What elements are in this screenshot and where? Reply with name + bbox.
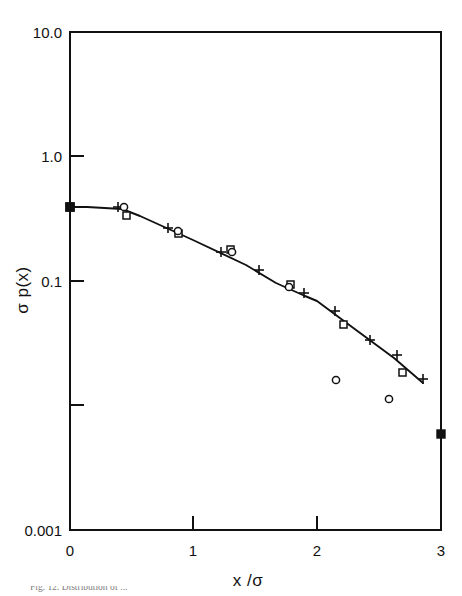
- x-tick-marks: [193, 516, 317, 530]
- open-circle-markers: [120, 203, 392, 402]
- figure-caption: Fig. 12. Distribution of ...: [30, 586, 127, 592]
- plot-frame: [70, 32, 441, 530]
- figure-container: 10.0 1.0 0.1 0.001 0 1 2 3 x /σ σ p(x): [0, 0, 462, 596]
- model-curve-line: [70, 207, 423, 383]
- x-tick-label-2: 2: [313, 542, 321, 559]
- x-tick-label-1: 1: [189, 542, 197, 559]
- log-scatter-line-chart: 10.0 1.0 0.1 0.001 0 1 2 3 x /σ σ p(x): [0, 0, 462, 596]
- y-tick-marks: [70, 32, 84, 530]
- y-axis-title: σ p(x): [13, 266, 32, 314]
- open-square-markers: [66, 203, 406, 376]
- y-tick-label-0.001: 0.001: [24, 522, 62, 539]
- y-tick-label-1: 1.0: [41, 148, 62, 165]
- x-tick-label-3: 3: [437, 542, 445, 559]
- cross-markers: [113, 202, 428, 384]
- x-tick-label-0: 0: [66, 542, 74, 559]
- y-tick-label-10: 10.0: [33, 24, 62, 41]
- figure-caption-strip: Fig. 12. Distribution of ...: [0, 586, 462, 596]
- y-tick-label-0.1: 0.1: [41, 273, 62, 290]
